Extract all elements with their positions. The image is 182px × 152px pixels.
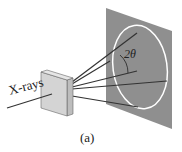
crystal-side: [67, 78, 73, 116]
caption: (a): [80, 130, 94, 146]
detector-screen: [106, 8, 172, 129]
xray-diffraction-diagram: X-rays 2θ (a): [0, 0, 182, 152]
angle-label: 2θ: [124, 47, 136, 62]
